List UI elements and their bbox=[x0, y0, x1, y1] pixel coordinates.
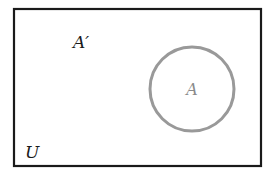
venn-diagram: A A′ U bbox=[0, 0, 276, 175]
universal-set-rectangle bbox=[14, 9, 261, 166]
complement-label: A′ bbox=[71, 32, 89, 52]
set-a-label: A bbox=[184, 80, 198, 99]
universe-label: U bbox=[25, 142, 40, 162]
